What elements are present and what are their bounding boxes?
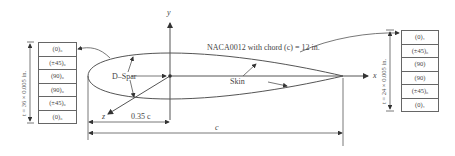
- ply-row: (±45)₆: [402, 45, 438, 59]
- left-laminate-table: (0)₆ (±45)₆ (90)₆ (90)₆ (±45)₆ (0)₆: [38, 42, 77, 124]
- z-axis-label: z: [102, 113, 105, 121]
- ply-row: (0)₆: [39, 43, 76, 57]
- ply-row: (0)₁: [402, 99, 438, 112]
- ply-row: (90)₆: [39, 70, 76, 84]
- diagram-title: NACA0012 with chord (c) = 12 in.: [207, 44, 320, 52]
- ply-row: (±45)₆: [39, 97, 76, 111]
- skin-label: Skin: [230, 78, 245, 86]
- y-axis-label: y: [167, 9, 171, 17]
- ply-row: (0)₁: [402, 31, 438, 45]
- x-axis-label: x: [373, 72, 377, 80]
- ply-row: (±45)₆: [402, 85, 438, 99]
- ply-row: (0)₆: [39, 111, 76, 124]
- left-thickness-label: t = 36 × 0.005 in.: [20, 71, 27, 116]
- ply-row: (±45)₆: [39, 57, 76, 71]
- d-spar-label: D–Spar: [112, 73, 136, 81]
- right-thickness-label: t = 24 × 0.005 in.: [380, 59, 387, 104]
- ply-row: (90): [402, 58, 438, 72]
- spar-position-label: 0.35 c: [131, 113, 151, 121]
- ply-row: (90): [402, 72, 438, 86]
- chord-label: c: [215, 124, 219, 132]
- right-laminate-table: (0)₁ (±45)₆ (90) (90) (±45)₆ (0)₁: [401, 30, 439, 112]
- ply-row: (90)₆: [39, 84, 76, 98]
